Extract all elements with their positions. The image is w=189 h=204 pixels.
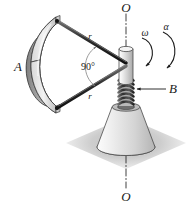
conical-base — [97, 103, 155, 156]
omega-arrow — [142, 38, 152, 66]
axis-label-bottom: O — [121, 189, 131, 204]
mechanics-diagram-svg: O O A B r r 90° ω α — [0, 0, 189, 204]
figure-container: O O A B r r 90° ω α — [0, 0, 189, 204]
curved-plate-a — [26, 16, 60, 114]
axis-label-top: O — [121, 0, 131, 15]
rod-lower-label-r: r — [88, 91, 92, 101]
alpha-arrow — [163, 32, 175, 68]
omega-label: ω — [141, 27, 148, 38]
rod-upper — [55, 19, 126, 63]
spring-label-b: B — [169, 81, 177, 96]
angle-label-90deg: 90° — [81, 61, 95, 72]
rod-upper-label-r: r — [88, 31, 92, 41]
alpha-label: α — [163, 21, 169, 32]
plate-label-a: A — [13, 59, 22, 74]
